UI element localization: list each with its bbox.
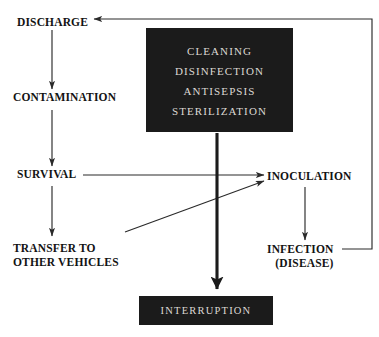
interruption-label: INTERRUPTION bbox=[161, 305, 252, 316]
node-transfer-line-1: TRANSFER TO bbox=[13, 241, 119, 255]
infection-chain-diagram: DISCHARGE CONTAMINATION SURVIVAL TRANSFE… bbox=[0, 0, 379, 337]
node-contamination: CONTAMINATION bbox=[13, 91, 116, 105]
node-transfer-to-other-vehicles: TRANSFER TO OTHER VEHICLES bbox=[13, 241, 119, 269]
node-transfer-line-2: OTHER VEHICLES bbox=[13, 255, 119, 269]
node-infection-line-1: INFECTION bbox=[267, 242, 334, 256]
treatment-methods-box: CLEANING DISINFECTION ANTISEPSIS STERILI… bbox=[146, 28, 293, 132]
node-infection-line-2: (DISEASE) bbox=[267, 256, 334, 270]
treatment-line-cleaning: CLEANING bbox=[187, 45, 252, 57]
node-inoculation: INOCULATION bbox=[267, 170, 352, 184]
edge-transfer-to-inoculation bbox=[125, 181, 264, 232]
treatment-line-sterilization: STERILIZATION bbox=[172, 105, 267, 117]
node-survival: SURVIVAL bbox=[17, 168, 76, 182]
interruption-box: INTERRUPTION bbox=[139, 296, 273, 325]
treatment-line-antisepsis: ANTISEPSIS bbox=[183, 85, 255, 97]
node-discharge: DISCHARGE bbox=[17, 16, 88, 30]
treatment-line-disinfection: DISINFECTION bbox=[175, 65, 264, 77]
node-infection-disease: INFECTION (DISEASE) bbox=[267, 242, 334, 270]
